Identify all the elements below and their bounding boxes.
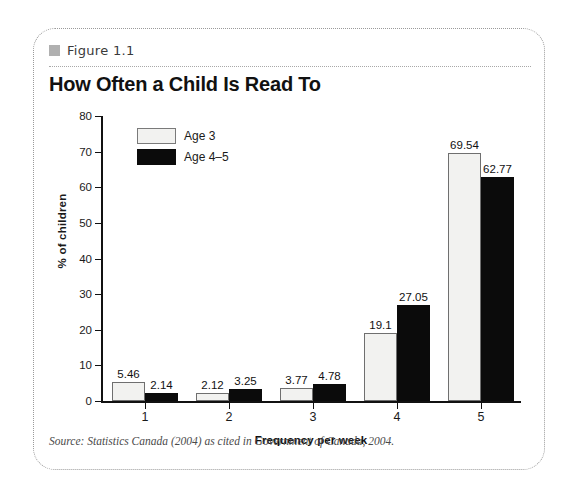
- bar-age-4-5-3[interactable]: 4.78: [313, 384, 346, 401]
- y-tick-label: 70: [79, 146, 92, 158]
- y-tick-mark: [95, 401, 101, 402]
- y-tick-mark: [95, 259, 101, 260]
- bar-value-label: 4.78: [318, 370, 340, 382]
- x-tick-mark: [313, 403, 314, 409]
- chart-legend: Age 3 Age 4–5: [137, 128, 229, 170]
- bar-age-3-5[interactable]: 69.54: [448, 153, 481, 401]
- y-tick-label: 40: [79, 253, 92, 265]
- y-tick-label: 80: [79, 110, 92, 122]
- legend-item-age-3[interactable]: Age 3: [137, 128, 229, 144]
- legend-label: Age 3: [184, 129, 215, 143]
- legend-item-age-4-5[interactable]: Age 4–5: [137, 149, 229, 165]
- bar-value-label: 19.1: [369, 319, 391, 331]
- bar-value-label: 3.77: [285, 374, 307, 386]
- bar-value-label: 69.54: [450, 139, 479, 151]
- y-tick-mark: [95, 330, 101, 331]
- y-tick-label: 10: [79, 359, 92, 371]
- bar-age-3-2[interactable]: 2.12: [196, 393, 229, 401]
- bar-value-label: 27.05: [399, 291, 428, 303]
- x-tick-label: 3: [310, 410, 317, 424]
- y-axis-line: [101, 116, 103, 401]
- y-tick-label: 50: [79, 217, 92, 229]
- bar-age-4-5-1[interactable]: 2.14: [145, 393, 178, 401]
- source-note: Source: Statistics Canada (2004) as cite…: [49, 435, 394, 447]
- y-tick-mark: [95, 116, 101, 117]
- y-tick-mark: [95, 365, 101, 366]
- legend-label: Age 4–5: [184, 150, 229, 164]
- bar-age-4-5-5[interactable]: 62.77: [481, 177, 514, 401]
- x-tick-mark: [481, 403, 482, 409]
- legend-swatch-icon: [137, 149, 176, 165]
- bar-age-4-5-4[interactable]: 27.05: [397, 305, 430, 401]
- y-tick-label: 30: [79, 288, 92, 300]
- bar-age-4-5-2[interactable]: 3.25: [229, 389, 262, 401]
- x-tick-mark: [145, 403, 146, 409]
- x-tick-label: 5: [478, 410, 485, 424]
- x-tick-mark: [397, 403, 398, 409]
- legend-swatch-icon: [137, 128, 176, 144]
- x-tick-label: 2: [226, 410, 233, 424]
- bar-age-3-3[interactable]: 3.77: [280, 388, 313, 401]
- x-tick-mark: [229, 403, 230, 409]
- y-axis-title: % of children: [56, 171, 68, 291]
- y-tick-mark: [95, 294, 101, 295]
- y-tick-mark: [95, 223, 101, 224]
- bar-age-3-4[interactable]: 19.1: [364, 333, 397, 401]
- y-tick-label: 20: [79, 324, 92, 336]
- y-tick-label: 60: [79, 181, 92, 193]
- x-axis-line: [101, 401, 521, 403]
- bar-value-label: 2.12: [201, 379, 223, 391]
- bar-value-label: 5.46: [117, 368, 139, 380]
- chart-canvas: % of children 01020304050607080 5.462.14…: [34, 29, 546, 429]
- x-tick-label: 1: [142, 410, 149, 424]
- bar-value-label: 2.14: [150, 379, 172, 391]
- bar-age-3-1[interactable]: 5.46: [112, 382, 145, 401]
- y-tick-label: 0: [86, 395, 92, 407]
- y-tick-mark: [95, 187, 101, 188]
- x-tick-label: 4: [394, 410, 401, 424]
- bar-value-label: 3.25: [234, 375, 256, 387]
- figure-frame: Figure 1.1 How Often a Child Is Read To …: [33, 28, 545, 470]
- y-tick-mark: [95, 152, 101, 153]
- bar-value-label: 62.77: [483, 163, 512, 175]
